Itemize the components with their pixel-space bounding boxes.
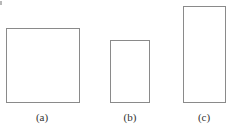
- label-a: (a): [22, 111, 62, 123]
- rectangle-b: [110, 40, 150, 103]
- rectangle-c: [183, 6, 226, 103]
- rectangle-a: [6, 28, 80, 103]
- label-c: (c): [184, 111, 224, 123]
- corner-mark: [0, 1, 2, 5]
- label-b: (b): [110, 111, 150, 123]
